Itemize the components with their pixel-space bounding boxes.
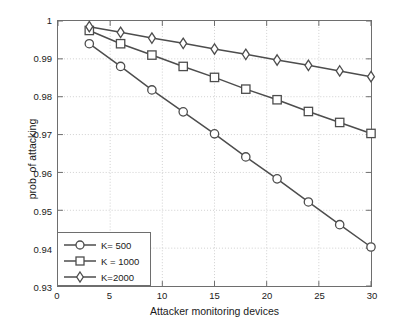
data-point-marker — [273, 96, 281, 104]
y-tick-label: 0.99 — [0, 53, 52, 64]
legend-item[interactable]: K=2000 — [58, 269, 150, 285]
data-point-marker — [148, 51, 156, 59]
legend-label: K= 500 — [97, 240, 131, 251]
series-line — [89, 30, 371, 133]
data-point-marker — [211, 44, 218, 54]
legend-item[interactable]: K= 500 — [58, 237, 150, 253]
data-point-marker — [305, 60, 312, 70]
data-point-marker — [336, 221, 344, 229]
data-point-marker — [336, 66, 343, 76]
data-point-marker — [85, 40, 93, 48]
data-point-marker — [180, 38, 187, 48]
series-square — [85, 26, 375, 137]
data-point-marker — [210, 130, 218, 138]
x-tick-label: 25 — [300, 290, 340, 301]
data-point-marker — [336, 118, 344, 126]
data-point-marker — [242, 49, 249, 59]
legend-label: K = 1000 — [97, 256, 139, 267]
y-tick-label: 0.94 — [0, 243, 52, 254]
legend-sample-square-icon — [63, 254, 97, 268]
data-point-marker — [242, 153, 250, 161]
x-tick-label: 15 — [195, 290, 235, 301]
data-point-marker — [304, 198, 312, 206]
data-point-marker — [367, 243, 375, 251]
data-point-marker — [368, 71, 375, 81]
y-tick-label: 1 — [0, 15, 52, 26]
legend-sample-diamond-icon — [63, 270, 97, 284]
legend-sample-circle-icon — [63, 238, 97, 252]
x-tick-label: 30 — [352, 290, 392, 301]
x-axis-title: Attacker monitoring devices — [57, 305, 372, 317]
data-point-marker — [179, 108, 187, 116]
chart-figure: 0.930.940.950.960.970.980.991 0510152025… — [0, 0, 400, 330]
data-point-marker — [274, 55, 281, 65]
data-point-marker — [304, 107, 312, 115]
data-point-marker — [148, 86, 156, 94]
series-circle — [85, 40, 375, 252]
x-tick-label: 5 — [90, 290, 130, 301]
data-point-marker — [76, 241, 84, 249]
data-point-marker — [77, 272, 84, 282]
data-point-marker — [148, 33, 155, 43]
legend-item[interactable]: K = 1000 — [58, 253, 150, 269]
data-point-marker — [117, 27, 124, 37]
data-point-marker — [179, 62, 187, 70]
x-tick-label: 10 — [142, 290, 182, 301]
x-tick-label: 20 — [247, 290, 287, 301]
data-point-marker — [116, 62, 124, 70]
series-line — [89, 27, 371, 77]
data-point-marker — [367, 129, 375, 137]
series-line — [89, 44, 371, 247]
x-tick-label: 0 — [37, 290, 77, 301]
data-point-marker — [116, 40, 124, 48]
y-axis-title: prob. of attacking — [26, 79, 38, 239]
data-point-marker — [273, 175, 281, 183]
legend-label: K=2000 — [97, 272, 134, 283]
data-point-marker — [76, 257, 84, 265]
data-point-marker — [210, 73, 218, 81]
legend: K= 500K = 1000K=2000 — [57, 232, 151, 286]
data-point-marker — [242, 85, 250, 93]
